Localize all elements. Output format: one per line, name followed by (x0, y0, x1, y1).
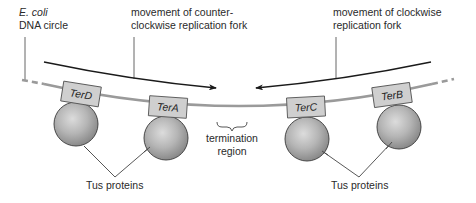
termination-label-line1: termination (202, 132, 262, 145)
dna-circle-label: DNA circle (19, 19, 68, 32)
ter-label: TerA (157, 100, 180, 113)
termination-brace (217, 122, 247, 131)
ter-label: TerC (295, 100, 318, 113)
tus-leader-1-tip (84, 146, 90, 152)
organism-label: E. coli (19, 6, 48, 19)
ter-site-tera: TerA (148, 96, 187, 119)
tus-protein-4 (377, 105, 421, 149)
cw-fork-label-line1: movement of clockwise (333, 6, 442, 19)
ter-site-terb: TerB (372, 82, 412, 107)
ccw-fork-label-line1: movement of counter- (131, 6, 233, 19)
dna-arc-dashed-right (432, 79, 454, 84)
dna-arc-dashed-left (22, 80, 44, 84)
ccw-fork-label-line2: clockwise replication fork (131, 19, 247, 32)
ter-site-terd: TerD (61, 81, 102, 107)
tus-proteins-label-left: Tus proteins (86, 179, 143, 192)
tus-protein-1 (54, 102, 98, 146)
tus-protein-3 (285, 117, 329, 161)
tus-protein-2 (144, 116, 188, 160)
termination-label-line2: region (202, 145, 262, 158)
cw-fork-label-line2: replication fork (333, 19, 401, 32)
tus-proteins-label-right: Tus proteins (331, 179, 388, 192)
ter-site-terc: TerC (287, 96, 326, 118)
